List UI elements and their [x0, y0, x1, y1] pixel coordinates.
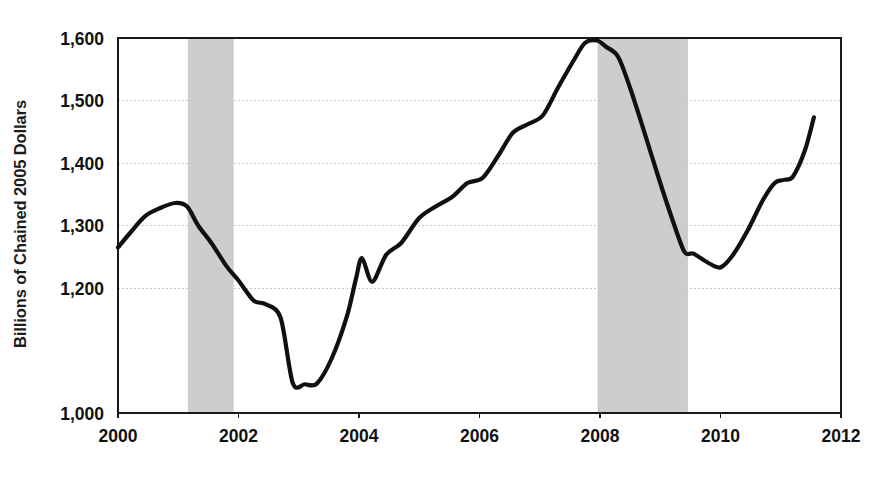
x-tick-label-2002: 2002 — [219, 426, 258, 446]
x-tick-label-2010: 2010 — [701, 426, 740, 446]
y-axis-title: Billions of Chained 2005 Dollars — [11, 100, 29, 348]
x-tick-label-2000: 2000 — [99, 426, 138, 446]
chart-figure: 1,0001,2001,3001,4001,5001,600 200020022… — [0, 0, 886, 478]
y-tick-label-1500: 1,500 — [60, 91, 104, 111]
y-tick-label-1600: 1,600 — [60, 29, 104, 49]
x-axis-tick-labels: 2000200220042006200820102012 — [99, 413, 861, 446]
x-tick-label-2004: 2004 — [340, 426, 379, 446]
y-tick-label-1300: 1,300 — [60, 216, 104, 236]
line-chart-canvas: 1,0001,2001,3001,4001,5001,600 200020022… — [0, 0, 886, 478]
y-tick-label-1000: 1,000 — [60, 404, 104, 424]
y-axis-tick-labels: 1,0001,2001,3001,4001,5001,600 — [60, 29, 104, 424]
y-tick-label-1200: 1,200 — [60, 279, 104, 299]
y-tick-label-1400: 1,400 — [60, 154, 104, 174]
x-tick-label-2008: 2008 — [581, 426, 620, 446]
x-tick-label-2012: 2012 — [822, 426, 861, 446]
x-tick-label-2006: 2006 — [460, 426, 499, 446]
